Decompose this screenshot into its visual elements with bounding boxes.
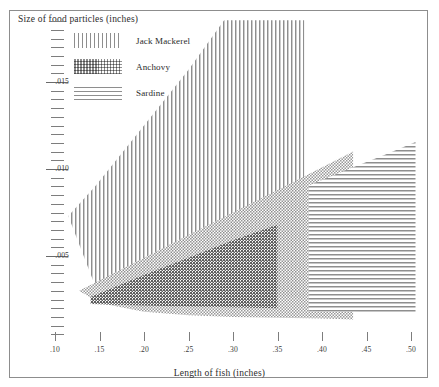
x-axis-tick xyxy=(55,332,56,341)
x-axis: .10.15.20.25.30.35.40.45.50 xyxy=(0,0,439,387)
x-axis-tick xyxy=(189,332,190,341)
x-axis-tick-label: .10 xyxy=(40,345,70,354)
x-axis-tick-label: .35 xyxy=(263,345,293,354)
x-axis-tick-label: .50 xyxy=(396,345,426,354)
x-axis-tick-label: .20 xyxy=(129,345,159,354)
x-axis-tick xyxy=(322,332,323,341)
x-axis-tick xyxy=(100,332,101,341)
x-axis-tick-label: .45 xyxy=(352,345,382,354)
x-axis-tick-label: .40 xyxy=(307,345,337,354)
x-axis-tick xyxy=(367,332,368,341)
x-axis-title: Length of fish (inches) xyxy=(0,368,439,378)
x-axis-tick-label: .30 xyxy=(218,345,248,354)
x-axis-tick-label: .15 xyxy=(85,345,115,354)
chart-figure: Size of food particles (inches) .005.010… xyxy=(0,0,439,387)
x-axis-tick xyxy=(144,332,145,341)
x-axis-tick-label: .25 xyxy=(174,345,204,354)
x-axis-tick xyxy=(233,332,234,341)
x-axis-tick xyxy=(278,332,279,341)
x-axis-tick xyxy=(411,332,412,341)
